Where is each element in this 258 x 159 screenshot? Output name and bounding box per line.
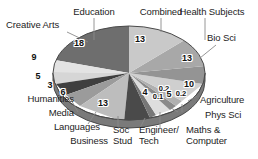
label-media: Media (10, 108, 74, 119)
label-health-subjects: Health Subjects (167, 7, 257, 18)
label-business: Business (40, 136, 108, 147)
value-phys-sci: 0.2 (173, 89, 189, 98)
label-bio-sci: Bio Sci (207, 33, 257, 44)
label-soc-stud-line1: Soc (113, 125, 143, 136)
value-creative-arts: 9 (28, 52, 40, 62)
value-humanities: 5 (33, 71, 43, 81)
label-agriculture: Agriculture (200, 95, 258, 106)
label-humanities: Humanities (0, 94, 74, 105)
label-maths-computer-line1: Maths & (186, 125, 238, 136)
label-engineer-tech-line1: Engineer/ (139, 125, 189, 136)
label-engineer-tech-line2: Tech (139, 136, 179, 147)
value-combined: 13 (131, 34, 149, 44)
value-soc-stud: 4 (140, 87, 150, 97)
label-languages: Languages (20, 122, 100, 133)
label-education: Education (59, 7, 129, 18)
value-engineer-tech: 0.1 (150, 92, 166, 101)
value-education: 18 (70, 38, 88, 48)
pie-chart: 18 13 13 13 10 0.2 0.2 5 0.1 4 13 6 3 5 … (0, 0, 258, 159)
label-phys-sci: Phys Sci (205, 110, 257, 121)
label-soc-stud-line2: Stud (113, 136, 143, 147)
label-creative-arts: Creative Arts (6, 20, 78, 31)
value-agriculture: 10 (181, 79, 197, 89)
value-media: 3 (45, 80, 55, 90)
label-maths-computer-line2: Computer (186, 136, 246, 147)
value-business: 13 (96, 98, 110, 108)
